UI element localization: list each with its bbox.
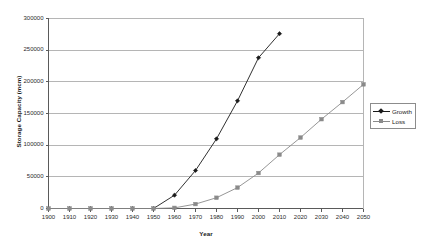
data-point-loss bbox=[215, 196, 219, 200]
legend-item-loss: Loss bbox=[373, 116, 412, 126]
loss-series-icon bbox=[373, 117, 390, 125]
series-line-loss bbox=[49, 84, 364, 208]
data-point-loss bbox=[299, 136, 303, 140]
legend-item-growth: Growth bbox=[373, 106, 412, 116]
data-point-loss bbox=[320, 117, 324, 121]
chart-container: Storage Capacity (mcm) Year 050000100000… bbox=[0, 0, 427, 246]
data-point-loss bbox=[131, 207, 135, 211]
growth-series-icon bbox=[373, 107, 390, 115]
chart-legend: Growth Loss bbox=[370, 103, 416, 129]
data-point-loss bbox=[257, 171, 261, 175]
data-point-loss bbox=[47, 207, 51, 211]
data-point-loss bbox=[68, 207, 72, 211]
data-point-loss bbox=[278, 153, 282, 157]
plot-area bbox=[0, 0, 427, 246]
data-point-loss bbox=[152, 207, 156, 211]
data-point-growth bbox=[235, 99, 239, 103]
data-point-loss bbox=[89, 207, 93, 211]
data-point-loss bbox=[236, 186, 240, 190]
data-point-loss bbox=[173, 206, 177, 210]
data-point-loss bbox=[341, 100, 345, 104]
data-point-loss bbox=[194, 202, 198, 206]
legend-label-loss: Loss bbox=[390, 118, 405, 125]
legend-label-growth: Growth bbox=[390, 108, 412, 115]
data-point-loss bbox=[362, 83, 366, 87]
data-point-loss bbox=[110, 207, 114, 211]
